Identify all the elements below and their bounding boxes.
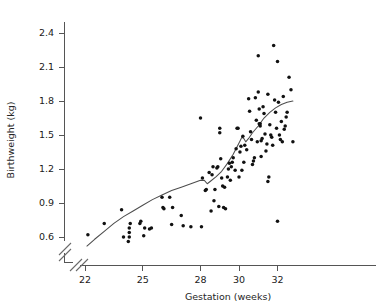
- data-point: [122, 235, 126, 239]
- y-tick-label: 1.5: [39, 129, 54, 140]
- x-tick-label: 22: [79, 274, 91, 285]
- data-point: [289, 88, 293, 92]
- data-point: [274, 111, 278, 115]
- data-point: [103, 222, 107, 226]
- data-point: [283, 124, 287, 128]
- x-tick-label: 32: [271, 274, 283, 285]
- data-point: [224, 207, 228, 211]
- data-point: [231, 156, 235, 160]
- data-point: [282, 128, 286, 132]
- data-point: [250, 138, 254, 142]
- data-point: [266, 92, 270, 96]
- data-point: [285, 111, 289, 115]
- data-point: [181, 224, 185, 228]
- y-tick-label: 0.9: [39, 197, 54, 208]
- data-point: [276, 219, 280, 223]
- data-point: [237, 175, 241, 179]
- x-tick-group: 2225283032: [79, 265, 284, 285]
- data-point: [209, 209, 213, 213]
- data-point: [240, 168, 244, 172]
- data-point: [128, 222, 132, 226]
- data-point: [261, 105, 265, 109]
- data-point: [207, 171, 211, 175]
- data-point: [162, 207, 166, 211]
- data-point: [216, 165, 220, 169]
- data-point: [230, 165, 234, 169]
- y-tick-label: 2.4: [39, 27, 54, 38]
- y-tick-label: 2.1: [39, 61, 54, 72]
- data-point: [86, 233, 90, 237]
- data-point: [168, 196, 172, 200]
- data-point: [231, 160, 235, 164]
- x-axis-title: Gestation (weeks): [185, 291, 271, 302]
- data-point: [267, 175, 271, 179]
- data-point: [171, 206, 175, 210]
- data-point: [236, 126, 240, 130]
- data-point: [220, 176, 224, 180]
- data-point: [277, 100, 281, 104]
- data-point: [189, 225, 193, 229]
- data-point: [210, 173, 214, 177]
- data-point: [281, 140, 285, 144]
- data-point: [150, 226, 154, 230]
- data-point: [260, 137, 264, 141]
- data-point: [256, 140, 260, 144]
- data-point: [238, 150, 242, 154]
- data-point: [257, 90, 261, 94]
- data-point: [291, 140, 295, 144]
- data-point: [242, 160, 246, 164]
- data-point: [211, 165, 215, 169]
- data-point: [247, 97, 251, 101]
- data-point: [266, 180, 270, 184]
- data-point: [284, 115, 288, 119]
- data-point: [275, 126, 279, 130]
- data-point: [120, 208, 124, 212]
- data-point: [128, 231, 132, 235]
- data-point: [199, 116, 203, 120]
- data-point: [259, 155, 263, 159]
- scatter-plot: 0.60.91.21.51.82.12.4 2225283032 Gestati…: [0, 0, 377, 308]
- data-point: [262, 112, 266, 116]
- data-point: [272, 44, 276, 48]
- data-point: [257, 107, 261, 111]
- data-point: [239, 145, 243, 149]
- data-point: [229, 179, 233, 183]
- data-point: [258, 124, 262, 128]
- data-point: [218, 131, 222, 135]
- data-point: [143, 226, 147, 230]
- data-point: [271, 143, 275, 147]
- data-point: [248, 109, 252, 113]
- data-point: [282, 95, 286, 99]
- data-point: [287, 76, 291, 80]
- trend-line: [87, 101, 293, 246]
- y-tick-group: 0.60.91.21.51.82.12.4: [39, 27, 65, 242]
- data-point: [128, 235, 132, 239]
- data-point: [160, 196, 164, 200]
- data-point: [217, 205, 221, 209]
- data-point: [280, 120, 284, 124]
- data-point: [257, 54, 261, 58]
- data-point: [263, 132, 267, 136]
- data-point: [226, 175, 230, 179]
- y-tick-label: 1.2: [39, 163, 54, 174]
- data-point: [273, 98, 277, 102]
- data-point: [218, 126, 222, 130]
- data-point: [212, 199, 216, 203]
- data-point-group: [86, 44, 295, 244]
- chart-figure: 0.60.91.21.51.82.12.4 2225283032 Gestati…: [0, 0, 377, 308]
- data-point: [270, 136, 274, 140]
- data-point: [251, 163, 255, 167]
- x-tick-label: 28: [194, 274, 206, 285]
- data-point: [201, 176, 205, 180]
- x-tick-label: 30: [233, 274, 245, 285]
- data-point: [264, 149, 268, 153]
- data-point: [243, 143, 247, 147]
- data-point: [245, 148, 249, 152]
- data-point: [255, 119, 259, 123]
- data-point: [278, 133, 282, 137]
- x-tick-label: 25: [137, 274, 149, 285]
- data-point: [268, 123, 272, 127]
- data-point: [223, 185, 227, 189]
- data-point: [241, 134, 245, 138]
- y-axis-title: Birthweight (kg): [5, 102, 16, 179]
